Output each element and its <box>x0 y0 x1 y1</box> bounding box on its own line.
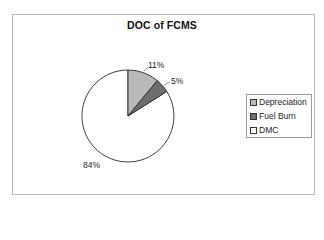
legend-item-depreciation: Depreciation <box>250 96 307 108</box>
data-label-dmc: 84% <box>83 160 100 170</box>
legend: Depreciation Fuel Burn DMC <box>246 94 312 138</box>
legend-item-dmc: DMC <box>250 124 278 136</box>
leader-line-fuel-burn <box>164 82 170 85</box>
legend-label-fuel-burn: Fuel Burn <box>259 111 296 121</box>
legend-swatch-dmc <box>250 127 257 134</box>
legend-swatch-depreciation <box>250 99 257 106</box>
legend-label-depreciation: Depreciation <box>259 97 307 107</box>
legend-swatch-fuel-burn <box>250 113 257 120</box>
legend-item-fuel-burn: Fuel Burn <box>250 110 296 122</box>
data-label-depreciation: 11% <box>148 60 164 70</box>
data-label-fuel-burn: 5% <box>171 76 183 86</box>
legend-label-dmc: DMC <box>259 125 278 135</box>
